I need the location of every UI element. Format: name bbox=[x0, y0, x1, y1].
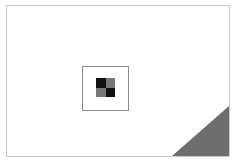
checker-cell-top-left bbox=[96, 78, 106, 88]
page-corner-fold-icon bbox=[172, 106, 229, 156]
image-placeholder-icon bbox=[96, 78, 115, 97]
image-placeholder[interactable] bbox=[82, 66, 129, 111]
slide-thumbnail[interactable] bbox=[6, 5, 230, 157]
checker-cell-bottom-right bbox=[106, 88, 116, 98]
checker-cell-bottom-left bbox=[96, 88, 106, 98]
thumbnail-caption bbox=[0, 158, 233, 165]
checker-cell-top-right bbox=[106, 78, 116, 88]
